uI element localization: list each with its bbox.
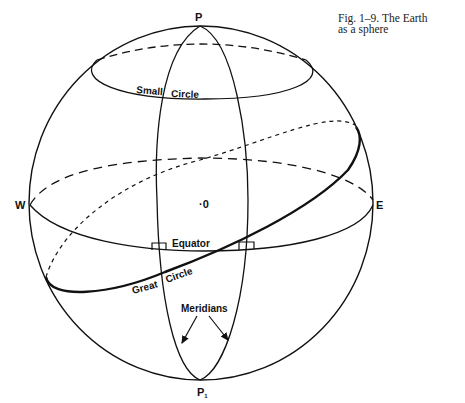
label-small-circle-a: Small (136, 84, 164, 97)
label-small-circle-b: Circle (171, 88, 200, 100)
label-east: E (376, 199, 383, 211)
label-great-circle-a: Great (131, 278, 160, 296)
label-north-pole: P (195, 11, 202, 23)
meridian-arrow-right (209, 316, 228, 340)
earth-sphere-diagram: P W E ·0 Small Circle Equator Great Circ… (0, 0, 465, 403)
small-circle-front (91, 60, 312, 99)
meridian-left (156, 26, 200, 380)
label-meridians: Meridians (181, 303, 228, 314)
meridian-arrow-left (182, 316, 197, 343)
label-west: W (15, 199, 26, 211)
label-center: ·0 (199, 198, 209, 210)
label-south-pole: P1 (197, 386, 208, 399)
small-circle-back (97, 44, 306, 60)
label-equator: Equator (172, 238, 210, 249)
